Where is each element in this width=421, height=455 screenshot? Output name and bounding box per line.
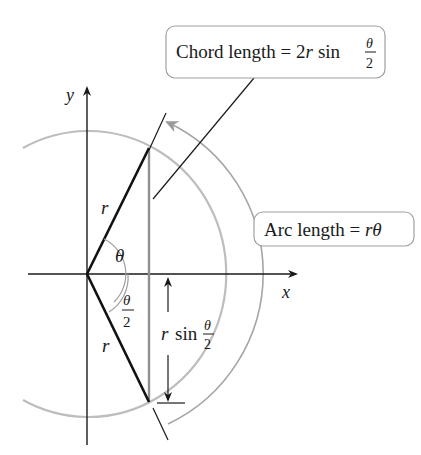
half-theta-numerator: θ bbox=[123, 292, 131, 308]
arc-callout-text: Arc length = rθ bbox=[264, 219, 382, 240]
chord-callout-frac-denominator: 2 bbox=[366, 56, 373, 71]
y-axis-label: y bbox=[64, 85, 74, 105]
chord-arc-diagram: y x r r θ θ 2 r sin θ 2 Chord length = 2… bbox=[0, 0, 421, 455]
half-chord-r: r bbox=[161, 323, 169, 344]
theta-label: θ bbox=[115, 245, 124, 266]
x-axis-label: x bbox=[281, 282, 290, 302]
half-chord-frac-numerator: θ bbox=[204, 318, 211, 333]
radius-upper-label: r bbox=[101, 197, 109, 218]
chord-callout-frac-numerator: θ bbox=[366, 36, 373, 51]
chord-callout-leader bbox=[153, 78, 254, 199]
half-chord-frac-denominator: 2 bbox=[204, 337, 211, 352]
tangent-upper bbox=[149, 113, 166, 150]
radius-lower-label: r bbox=[102, 335, 110, 356]
half-chord-sin: sin bbox=[175, 323, 198, 344]
radius-lower bbox=[87, 274, 149, 402]
chord-callout-prefix: Chord length = 2 bbox=[176, 41, 305, 62]
arc-callout-value: rθ bbox=[365, 219, 382, 240]
chord-callout-sin: sin bbox=[318, 41, 341, 62]
arc-callout-prefix: Arc length = bbox=[264, 219, 365, 240]
chord-callout-r: r bbox=[305, 41, 313, 62]
half-theta-denominator: 2 bbox=[123, 314, 131, 330]
tangent-lower bbox=[153, 408, 168, 440]
